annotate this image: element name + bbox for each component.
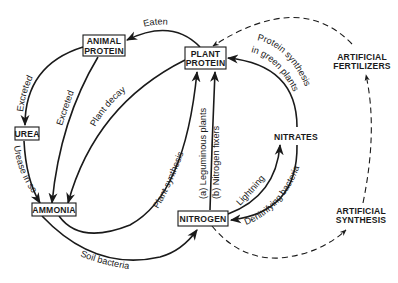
node-urea: UREA [14,127,39,140]
label-plant-synthesis: Plant synthesis [151,150,186,210]
node-nitrates: NITRATES [274,132,318,142]
svg-text:ANIMAL: ANIMAL [87,36,122,46]
edge-dashed-fertilizers-plant [213,17,352,46]
label-in-green-plants: in green plants [250,44,301,93]
node-ammonia: AMMONIA [32,203,76,216]
edge-dashed-synthesis-fertilizers [363,75,371,203]
svg-text:UREA: UREA [14,129,39,139]
edge-eaten [127,31,200,47]
edge-excreted-urea [25,47,83,125]
node-animal-protein: ANIMAL PROTEIN [83,35,125,56]
svg-text:SYNTHESIS: SYNTHESIS [336,215,387,225]
node-nitrogen: NITROGEN [178,211,228,226]
svg-text:NITROGEN: NITROGEN [180,214,227,224]
svg-text:PROTEIN: PROTEIN [84,46,124,56]
label-eaten: Eaten [142,16,168,28]
svg-text:NITRATES: NITRATES [274,132,318,142]
node-artificial-fertilizers: ARTIFICIAL FERTILIZERS [333,52,391,71]
label-excreted-urea: Excreted [15,74,35,112]
svg-text:PLANT: PLANT [191,49,221,59]
svg-text:FERTILIZERS: FERTILIZERS [333,61,391,71]
nitrogen-cycle-diagram: Eaten Excreted Excreted Plant decay Urea… [0,0,398,283]
label-nitrogen-fixers: (b) Nitrogen fixers [211,125,221,199]
node-artificial-synthesis: ARTIFICIAL SYNTHESIS [336,206,387,225]
edge-dashed-nitrogen-synthesis [212,226,346,258]
svg-text:AMMONIA: AMMONIA [32,205,75,215]
label-leguminous-plants: (a) Leguminous plants [198,107,208,199]
svg-text:PROTEIN: PROTEIN [186,58,226,68]
node-plant-protein: PLANT PROTEIN [185,47,226,69]
